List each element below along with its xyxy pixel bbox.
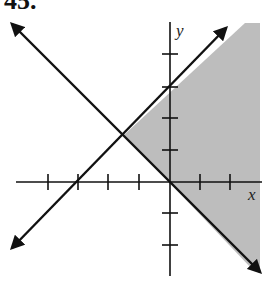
x-axis-label: x [247,185,256,204]
y-axis-label: y [174,21,184,40]
shaded-region [124,23,260,270]
inequality-graph: y x [0,0,266,281]
